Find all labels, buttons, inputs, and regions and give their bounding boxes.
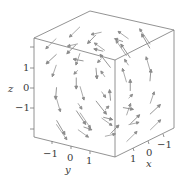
- y-tick-1: 1: [86, 156, 92, 166]
- arrow-head-icon: [94, 48, 97, 51]
- arrow-head-icon: [136, 122, 139, 125]
- y-tick-0: 0: [67, 153, 73, 163]
- arrow-head-icon: [108, 90, 111, 93]
- arrow-head-icon: [129, 103, 131, 106]
- y-axis-label: y: [65, 165, 71, 175]
- x-tick-1: 1: [130, 154, 136, 164]
- arrow-head-icon: [52, 74, 54, 77]
- arrow-head-icon: [152, 92, 154, 95]
- arrow-head-icon: [129, 79, 132, 82]
- z-tick-1: 1: [23, 63, 29, 73]
- x-axis-label: x: [146, 159, 152, 169]
- z-tick-neg1: −1: [15, 103, 30, 113]
- arrow-head-icon: [73, 58, 76, 61]
- z-tick-0: 0: [23, 83, 29, 93]
- arrow-head-icon: [146, 57, 148, 60]
- arrow-head-icon: [82, 97, 84, 100]
- vector-arrows: [46, 27, 161, 142]
- arrow-head-icon: [122, 68, 124, 71]
- y-tick-neg1: −1: [43, 149, 58, 159]
- arrow-head-icon: [121, 44, 124, 47]
- arrow-head-icon: [83, 121, 86, 124]
- arrow-head-icon: [58, 109, 60, 112]
- arrow-head-icon: [75, 86, 78, 89]
- arrow-head-icon: [95, 76, 98, 79]
- cube-frame: [34, 11, 174, 157]
- arrow-head-icon: [91, 33, 94, 36]
- arrow-head-icon: [76, 62, 78, 65]
- arrow-head-icon: [67, 44, 70, 47]
- x-tick-neg1: −1: [157, 140, 172, 150]
- z-axis-label: z: [8, 84, 13, 94]
- x-tick-0: 0: [146, 148, 152, 158]
- arrow-head-icon: [109, 117, 112, 120]
- arrow-head-icon: [130, 107, 133, 110]
